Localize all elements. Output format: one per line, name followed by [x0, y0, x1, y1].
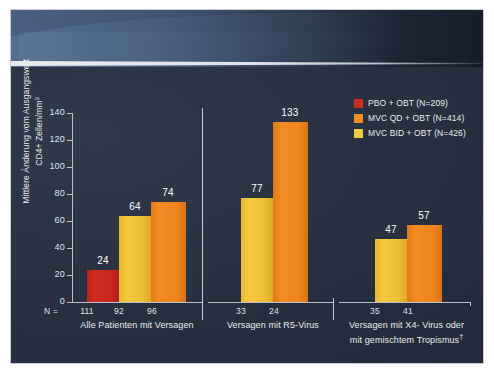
y-axis-title-line1: Mittlere Änderung vom Ausgangswert — [21, 59, 31, 204]
bar-pbo-obt-group1[interactable] — [87, 270, 119, 302]
legend-swatch-icon-pbo-obt — [354, 99, 363, 108]
baseline-group-2 — [208, 302, 333, 303]
group-divider-1 — [202, 108, 203, 320]
y-tick-group-60: 60 — [31, 216, 65, 226]
slide-canvas: Mittlere Änderung vom Ausgangswert CD4+ … — [0, 0, 494, 374]
group-caption-x4-virus-line1: Versagen mit X4- Virus oder — [349, 320, 464, 330]
group-divider-2 — [333, 298, 334, 320]
legend-label-pbo-obt: PBO + OBT (N=209) — [368, 99, 448, 108]
legend-swatch-icon-mvc-bid-obt — [354, 129, 363, 138]
legend-item-mvc-qd-obt[interactable]: MVC QD + OBT (N=414) — [354, 112, 483, 125]
n-row-prefix: N = — [44, 307, 58, 316]
y-tick-label-100: 100 — [39, 162, 65, 171]
legend-swatch-icon-mvc-qd-obt — [354, 114, 363, 123]
slide-frame: Mittlere Änderung vom Ausgangswert CD4+ … — [11, 10, 483, 363]
legend-item-pbo-obt[interactable]: PBO + OBT (N=209) — [354, 97, 483, 110]
bar-mvc-bid-obt-group2[interactable] — [241, 198, 273, 302]
y-tick-label-140: 140 — [39, 108, 65, 117]
legend-item-mvc-bid-obt[interactable]: MVC BID + OBT (N=426) — [354, 127, 483, 140]
header-band — [11, 10, 483, 67]
group-caption-r5-virus: Versagen mit R5-Virus — [193, 320, 353, 331]
bar-mvc-bid-obt-group1[interactable] — [119, 216, 151, 302]
bar-group-r5-virus: 77 133 — [208, 67, 333, 302]
group-caption-x4-virus-line2: mit gemischtem Tropismus — [350, 335, 459, 345]
n-value-group2-mvc-qd: 24 — [248, 307, 300, 316]
bar-mvc-qd-obt-group3[interactable] — [407, 225, 442, 302]
y-tick-group-20: 20 — [31, 270, 65, 280]
legend-label-mvc-bid-obt: MVC BID + OBT (N=426) — [368, 129, 466, 138]
y-tick-group-80: 80 — [31, 189, 65, 199]
y-tick-group-140: 140 — [31, 108, 65, 118]
bar-mvc-bid-obt-group3[interactable] — [375, 239, 407, 302]
y-tick-label-60: 60 — [39, 216, 65, 225]
y-tick-label-0: 0 — [39, 297, 65, 306]
y-axis-title-superscript: 3 — [34, 97, 40, 100]
n-value-group3-mvc-qd: 41 — [382, 307, 434, 316]
baseline-group-3 — [339, 302, 471, 303]
bar-value-mvc-qd-obt-group3: 57 — [398, 211, 450, 221]
bar-value-mvc-qd-obt-group1: 74 — [142, 188, 194, 198]
y-tick-group-100: 100 — [31, 162, 65, 172]
y-tick-label-40: 40 — [39, 243, 65, 252]
chart-legend: PBO + OBT (N=209) MVC QD + OBT (N=414) M… — [354, 97, 483, 142]
bar-mvc-qd-obt-group2[interactable] — [273, 122, 308, 302]
group-caption-x4-virus: Versagen mit X4- Virus oder mit gemischt… — [334, 320, 479, 346]
baseline-group-3-end-cap — [470, 302, 471, 306]
bar-chart: Mittlere Änderung vom Ausgangswert CD4+ … — [11, 67, 483, 363]
y-tick-group-40: 40 — [31, 243, 65, 253]
bar-mvc-qd-obt-group1[interactable] — [151, 202, 186, 302]
y-tick-group-120: 120 — [31, 135, 65, 145]
bar-group-alle-patienten: 24 64 74 — [72, 67, 202, 302]
baseline-group-1 — [72, 302, 202, 303]
bar-value-mvc-qd-obt-group2: 133 — [264, 108, 316, 118]
n-value-group1-mvc-qd: 96 — [126, 307, 178, 316]
y-tick-label-80: 80 — [39, 189, 65, 198]
legend-label-mvc-qd-obt: MVC QD + OBT (N=414) — [368, 114, 464, 123]
y-tick-label-20: 20 — [39, 270, 65, 279]
group-caption-x4-virus-dagger: † — [459, 333, 463, 340]
y-tick-label-120: 120 — [39, 135, 65, 144]
